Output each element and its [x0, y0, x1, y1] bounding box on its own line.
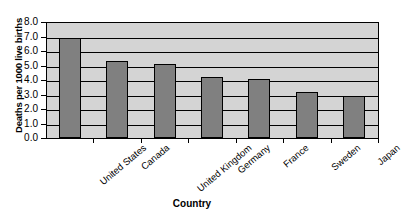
x-axis-tick-mark — [141, 139, 142, 143]
x-axis-category-label: Sweden — [329, 142, 362, 173]
x-axis-category-label: France — [281, 142, 311, 169]
x-axis-tick-mark — [93, 139, 94, 143]
y-axis-tick-mark — [41, 95, 46, 96]
bar-slot — [188, 22, 235, 138]
y-axis-tick-mark — [41, 37, 46, 38]
x-axis-tick-mark — [283, 139, 284, 143]
x-axis-tick-mark — [378, 139, 379, 143]
bar-slot — [46, 22, 93, 138]
bar[interactable] — [296, 92, 318, 138]
y-axis-tick-mark — [41, 109, 46, 110]
x-axis-category-label: Japan — [375, 142, 401, 167]
y-axis-tick-label: 1.0 — [8, 119, 38, 129]
bar-slot — [93, 22, 140, 138]
y-axis-tick-labels: 8.07.06.05.04.03.02.01.00.0 — [8, 22, 38, 138]
y-axis-tick-label: 3.0 — [8, 90, 38, 100]
x-axis-tick-mark — [331, 139, 332, 143]
bar-slot — [283, 22, 330, 138]
bars-layer — [46, 22, 378, 138]
bar[interactable] — [154, 64, 176, 138]
y-axis-tick-label: 5.0 — [8, 61, 38, 71]
y-axis-tick-label: 4.0 — [8, 75, 38, 85]
bar[interactable] — [248, 79, 270, 138]
y-axis-tick-mark — [41, 66, 46, 67]
y-axis-tick-mark — [41, 51, 46, 52]
bar-slot — [331, 22, 378, 138]
bar[interactable] — [343, 96, 365, 138]
bar[interactable] — [106, 61, 128, 138]
y-axis-tick-mark — [41, 138, 46, 139]
x-axis-tick-mark — [236, 139, 237, 143]
x-axis-title: Country — [0, 198, 384, 209]
y-axis-tick-label: 7.0 — [8, 32, 38, 42]
y-axis-tick-mark — [41, 22, 46, 23]
bar[interactable] — [201, 77, 223, 138]
y-axis-tick-mark — [41, 124, 46, 125]
bar-slot — [236, 22, 283, 138]
y-axis-tick-label: 6.0 — [8, 46, 38, 56]
x-axis-tick-mark — [188, 139, 189, 143]
bar-slot — [141, 22, 188, 138]
x-axis-category-labels: United StatesCanadaUnited KingdomGermany… — [0, 138, 384, 196]
y-axis-tick-label: 2.0 — [8, 104, 38, 114]
bar[interactable] — [59, 38, 81, 138]
y-axis-tick-mark — [41, 80, 46, 81]
y-axis-tick-label: 8.0 — [8, 17, 38, 27]
